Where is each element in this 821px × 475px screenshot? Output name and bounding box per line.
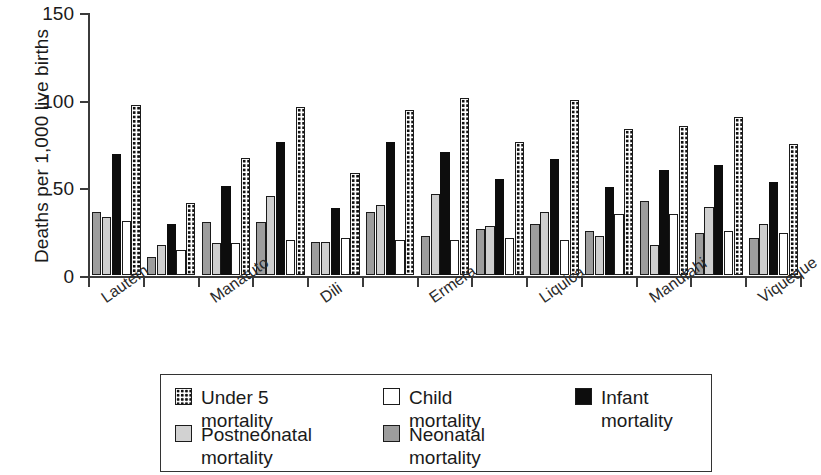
bar-postneonatal [759,224,768,275]
bar-group [530,12,578,275]
bar-child [505,238,514,275]
y-tick-label: 100 [42,91,74,113]
bar-neonatal [202,222,211,275]
y-axis-title: Deaths per 1,000 live births [31,6,53,286]
bar-under5 [296,107,305,275]
legend-swatch-infant-icon [575,388,592,405]
bar-neonatal [421,236,430,275]
bar-postneonatal [102,217,111,275]
bar-under5 [460,98,469,275]
bar-group [749,12,797,275]
bar-neonatal [640,201,649,275]
bar-under5 [131,105,140,275]
bar-under5 [350,173,359,275]
x-tick [307,276,309,287]
bar-group [202,12,250,275]
x-tick [362,276,364,287]
bar-child [724,231,733,275]
bar-neonatal [530,224,539,275]
bar-postneonatal [157,245,166,275]
bar-infant [440,152,449,275]
bar-infant [714,165,723,275]
bar-group [311,12,359,275]
bar-infant [550,159,559,275]
bar-postneonatal [595,236,604,275]
bar-neonatal [311,242,320,275]
bar-postneonatal [650,245,659,275]
x-tick [636,276,638,287]
bar-group [147,12,195,275]
bar-child [176,250,185,275]
bar-under5 [679,126,688,275]
legend-item: Infant mortality [575,386,673,432]
bar-child [341,238,350,275]
legend-label: Neonatal mortality [409,423,485,469]
legend-swatch-under5-icon [175,388,192,405]
y-tick: 150 [80,13,89,15]
bar-group [695,12,743,275]
bar-under5 [241,158,250,275]
bar-group [640,12,688,275]
y-tick-label: 0 [63,266,74,288]
bar-infant [659,170,668,275]
bar-under5 [734,117,743,275]
bar-group [476,12,524,275]
bar-group [421,12,469,275]
bar-infant [167,224,176,275]
bar-neonatal [749,238,758,275]
bar-child [614,214,623,275]
bar-child [122,221,131,275]
plot-area: 050100150 [88,13,800,277]
x-tick [88,276,90,287]
bar-group [92,12,140,275]
bar-under5 [789,144,798,276]
legend-label: Infant mortality [601,386,673,432]
bar-group [256,12,304,275]
bar-infant [112,154,121,275]
y-tick: 50 [80,188,89,190]
bar-neonatal [476,229,485,275]
y-axis-line [88,13,90,278]
legend-swatch-child-icon [383,388,400,405]
bar-group [585,12,633,275]
bar-infant [495,179,504,275]
x-tick [417,276,419,287]
bar-child [395,240,404,275]
y-tick-label: 150 [42,3,74,25]
bar-postneonatal [212,243,221,275]
chart-legend: Under 5 mortalityChild mortalityInfant m… [160,374,712,472]
bar-under5 [405,110,414,275]
bar-under5 [186,203,195,275]
bar-infant [221,186,230,275]
bar-child [286,240,295,275]
bar-infant [769,182,778,275]
bar-infant [605,187,614,275]
legend-swatch-neonatal-icon [383,425,400,442]
bar-neonatal [92,212,101,275]
bar-child [669,214,678,275]
bar-neonatal [366,212,375,275]
bar-postneonatal [431,194,440,275]
x-tick-label: Dili [317,279,346,306]
bar-postneonatal [540,212,549,275]
x-tick [526,276,528,287]
bar-neonatal [585,231,594,275]
bar-infant [276,142,285,275]
bar-under5 [624,129,633,275]
bar-postneonatal [485,226,494,275]
x-axis-labels: LautemManatutoDiliErmeraLiquicaManufahiV… [88,288,800,358]
y-tick: 100 [80,101,89,103]
legend-item: Neonatal mortality [383,423,485,469]
y-tick-label: 50 [53,178,74,200]
bar-postneonatal [376,205,385,275]
bar-under5 [570,100,579,275]
bar-postneonatal [321,242,330,275]
bar-infant [331,208,340,275]
x-tick [745,276,747,287]
legend-label: Postneonatal mortality [201,423,312,469]
legend-item: Postneonatal mortality [175,423,312,469]
bar-infant [386,142,395,275]
bar-under5 [515,142,524,275]
x-tick [198,276,200,287]
